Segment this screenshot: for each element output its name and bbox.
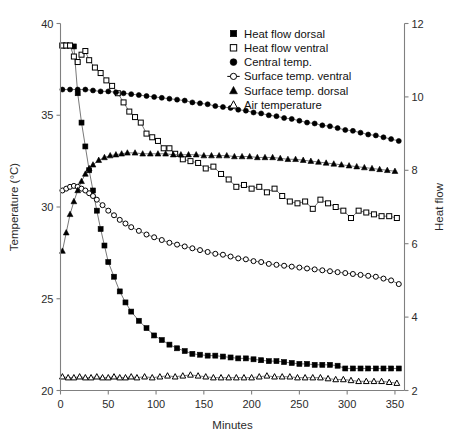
y-axis-left-tick-label: 25 (41, 293, 53, 305)
series-line (62, 90, 398, 141)
data-point-marker (282, 116, 287, 121)
data-point-marker (220, 104, 225, 109)
data-point-marker (274, 114, 279, 119)
data-point-marker (282, 263, 287, 268)
data-point-marker (350, 128, 355, 133)
data-point-marker (358, 130, 363, 135)
data-point-marker (178, 152, 184, 157)
legend-item-central-temp[interactable]: Central temp. (230, 56, 312, 68)
series-surface-temp-dorsal (60, 150, 398, 254)
data-point-marker (182, 244, 187, 249)
data-point-marker (312, 121, 317, 126)
data-point-marker (259, 358, 264, 363)
data-point-marker (123, 300, 128, 305)
data-point-marker (341, 208, 346, 213)
data-point-marker (234, 184, 239, 189)
legend-item-heat-flow-ventral[interactable]: Heat flow ventral (230, 42, 328, 54)
data-point-marker (282, 360, 287, 365)
data-point-marker (394, 216, 399, 221)
data-point-marker (241, 375, 247, 380)
legend-label: Heat flow ventral (244, 42, 328, 54)
data-point-marker (117, 289, 122, 294)
data-point-marker (111, 374, 117, 379)
data-point-marker (297, 265, 302, 270)
legend-item-surface-temp-ventral[interactable]: Surface temp. ventral (227, 70, 351, 82)
data-point-marker (159, 95, 164, 100)
y-axis-right-title: Heat flow (433, 182, 445, 231)
data-point-marker (129, 225, 134, 230)
data-point-marker (371, 378, 377, 383)
data-point-marker (198, 352, 203, 357)
data-point-marker (203, 166, 208, 171)
data-point-marker (389, 278, 394, 283)
data-point-marker (94, 374, 100, 379)
legend-item-heat-flow-dorsal[interactable]: Heat flow dorsal (230, 28, 325, 40)
data-point-marker (90, 88, 95, 93)
data-point-marker (83, 49, 88, 54)
data-point-marker (133, 115, 138, 120)
data-point-marker (175, 97, 180, 102)
data-point-marker (310, 375, 316, 380)
data-point-marker (205, 102, 210, 107)
data-point-marker (138, 120, 143, 125)
x-axis-tick-label: 350 (386, 398, 404, 410)
legend-label: Heat flow dorsal (244, 28, 325, 40)
data-point-marker (83, 144, 88, 149)
data-point-marker (243, 257, 248, 262)
data-point-marker (289, 264, 294, 269)
data-point-marker (312, 267, 317, 272)
x-axis-tick-label: 250 (290, 398, 308, 410)
data-point-marker (198, 248, 203, 253)
data-point-marker (287, 199, 292, 204)
x-axis-tick-label: 0 (57, 398, 63, 410)
legend-item-air-temperature[interactable]: Air temperature (230, 99, 322, 111)
data-point-marker (112, 213, 117, 218)
data-point-marker (305, 361, 310, 366)
data-point-marker (236, 256, 241, 261)
data-point-marker (226, 375, 232, 380)
data-point-marker (180, 157, 185, 162)
data-point-marker (167, 240, 172, 245)
x-axis-tick-label: 200 (242, 398, 260, 410)
data-point-marker (373, 366, 378, 371)
data-point-marker (63, 230, 69, 235)
legend-label: Surface temp. dorsal (244, 85, 348, 97)
data-point-marker (159, 338, 164, 343)
data-point-marker (132, 150, 138, 155)
data-point-marker (165, 373, 171, 378)
y-axis-right-tick-label: 8 (412, 164, 418, 176)
data-point-marker (305, 266, 310, 271)
data-point-marker (243, 356, 248, 361)
data-point-marker (381, 366, 386, 371)
data-point-marker (320, 123, 325, 128)
data-point-marker (396, 138, 401, 143)
data-point-marker (302, 375, 308, 380)
x-axis-tick-label: 50 (102, 398, 114, 410)
data-point-marker (264, 373, 270, 378)
data-point-marker (224, 152, 230, 157)
data-point-marker (381, 276, 386, 281)
data-point-marker (226, 177, 231, 182)
y-axis-left-tick-label: 20 (41, 385, 53, 397)
data-point-marker (144, 93, 149, 98)
data-point-marker (326, 201, 331, 206)
data-point-marker (79, 178, 85, 183)
data-point-marker (136, 93, 141, 98)
data-point-marker (356, 208, 361, 213)
data-point-marker (343, 366, 348, 371)
data-point-marker (121, 100, 126, 105)
legend-item-surface-temp-dorsal[interactable]: Surface temp. dorsal (230, 85, 349, 97)
data-point-marker (94, 208, 99, 213)
data-point-marker (295, 201, 300, 206)
data-point-marker (251, 357, 256, 362)
legend-label: Central temp. (244, 56, 312, 68)
data-point-marker (366, 132, 371, 137)
data-point-marker (335, 126, 340, 131)
data-point-marker (110, 83, 115, 88)
data-point-marker (98, 227, 103, 232)
data-point-marker (182, 349, 187, 354)
data-point-marker (155, 151, 161, 156)
data-point-marker (293, 156, 299, 161)
data-point-marker (188, 159, 193, 164)
data-point-marker (389, 137, 394, 142)
